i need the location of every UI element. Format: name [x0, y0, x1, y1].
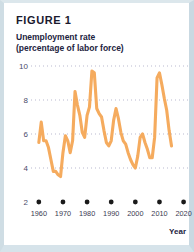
x-axis-label: 2010	[151, 209, 167, 218]
x-axis-label: 1970	[55, 209, 71, 218]
y-axis-label: 4	[24, 164, 29, 173]
x-axis-tick-dot	[36, 200, 41, 205]
x-axis-tick-dots-group	[36, 200, 186, 205]
x-axis-label: 2020	[175, 209, 191, 218]
x-axis-label: 1980	[79, 209, 95, 218]
x-axis-label: 1960	[31, 209, 47, 218]
y-axis-labels-group: 108642	[19, 62, 28, 207]
x-axis-tick-dot	[157, 200, 162, 205]
x-axis-tick-dot	[61, 200, 66, 205]
unemployment-rate-line	[39, 71, 172, 176]
y-axis-label: 6	[24, 130, 29, 139]
x-axis-labels-group: 1960197019801990200020102020	[31, 209, 192, 218]
x-axis-tick-dot	[133, 200, 138, 205]
y-axis-label: 10	[19, 62, 28, 71]
unemployment-line-chart: 108642 1960197019801990200020102020 Year	[4, 3, 194, 252]
gridlines-group	[31, 66, 188, 168]
x-axis-tick-dot	[109, 200, 114, 205]
x-axis-tick-dot	[85, 200, 90, 205]
y-axis-label: 8	[24, 96, 29, 105]
y-axis-label: 2	[24, 198, 29, 207]
x-axis-label: 2000	[127, 209, 143, 218]
figure-card: FIGURE 1 Unemployment rate (percentage o…	[0, 0, 194, 252]
figure-inner: FIGURE 1 Unemployment rate (percentage o…	[4, 3, 189, 245]
x-axis-label: 1990	[103, 209, 119, 218]
chart-plot-area: 108642 1960197019801990200020102020 Year	[4, 3, 194, 252]
x-axis-tick-dot	[181, 200, 186, 205]
x-axis-title: Year	[169, 227, 186, 236]
